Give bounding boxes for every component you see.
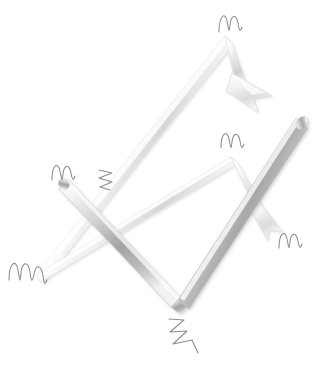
illustration-canvas: Abstract grayscale illustration of two c… (0, 0, 320, 375)
canvas-background (0, 0, 320, 375)
metallic-arrows-artwork (0, 0, 320, 375)
